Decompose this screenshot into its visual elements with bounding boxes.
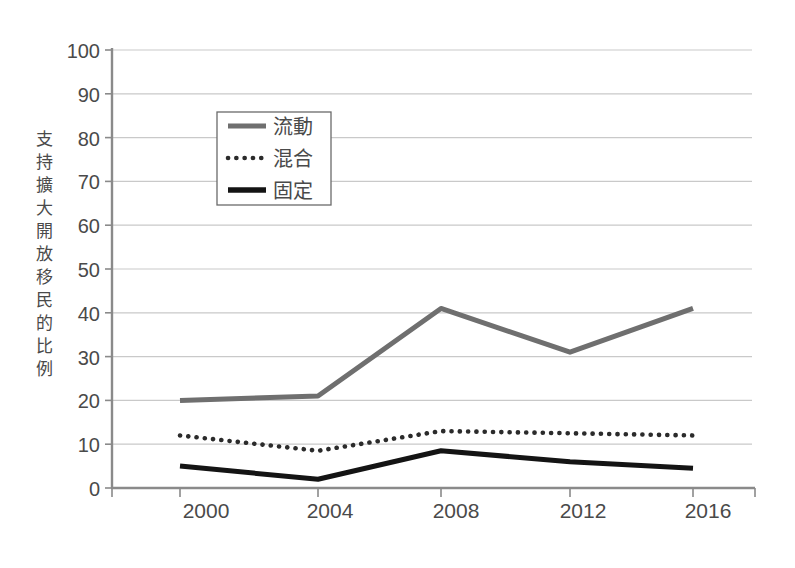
y-axis-label-char-7: 民: [36, 290, 53, 310]
y-axis-label-char-10: 例: [36, 359, 53, 379]
x-tick-label-2012: 2012: [560, 499, 607, 522]
y-tick-label-10: 10: [78, 434, 100, 456]
y-tick-label-50: 50: [78, 259, 100, 281]
legend-label-fixed: 固定: [273, 179, 313, 203]
y-axis-label-char-0: 支: [36, 129, 53, 149]
y-axis-label-char-8: 的: [36, 313, 53, 333]
x-tick-label-2008: 2008: [433, 499, 480, 522]
line-chart: 100 90 80 70 60 50 40 30 20 10 0 2000 20…: [0, 0, 795, 568]
y-axis-label: 支 持 擴 大 開 放 移 民 的 比 例: [36, 129, 53, 379]
y-axis-label-char-6: 移: [36, 267, 53, 287]
chart-background: [0, 0, 795, 568]
chart-canvas: 100 90 80 70 60 50 40 30 20 10 0 2000 20…: [0, 0, 795, 568]
y-axis-label-char-5: 放: [36, 244, 53, 264]
y-tick-label-100: 100: [67, 40, 100, 62]
x-tick-label-2016: 2016: [685, 499, 732, 522]
y-tick-label-80: 80: [78, 128, 100, 150]
y-tick-label-90: 90: [78, 84, 100, 106]
y-axis-label-char-9: 比: [36, 336, 53, 356]
y-tick-label-40: 40: [78, 303, 100, 325]
y-axis-label-char-4: 開: [36, 221, 53, 241]
y-axis-label-char-1: 持: [36, 152, 53, 172]
legend-label-fluid: 流動: [273, 115, 313, 139]
x-tick-label-2000: 2000: [183, 499, 230, 522]
legend-label-mixed: 混合: [273, 147, 313, 171]
y-tick-label-30: 30: [78, 347, 100, 369]
x-tick-label-2004: 2004: [307, 499, 354, 522]
y-tick-label-20: 20: [78, 390, 100, 412]
y-axis-label-char-2: 擴: [36, 175, 53, 195]
y-tick-label-0: 0: [89, 478, 100, 500]
y-axis-label-char-3: 大: [36, 198, 53, 218]
y-tick-label-60: 60: [78, 215, 100, 237]
y-tick-label-70: 70: [78, 171, 100, 193]
legend[interactable]: 流動 混合 固定: [217, 112, 331, 205]
